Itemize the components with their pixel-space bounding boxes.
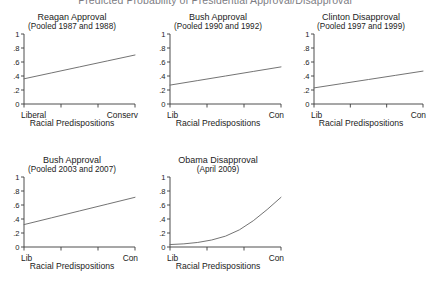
- y-axis-tick-label: .2: [13, 229, 19, 238]
- x-axis-title: Racial Predispositions: [148, 118, 288, 128]
- y-axis-tick-label: .4: [159, 215, 165, 224]
- panel-title: Reagan Approval: [2, 12, 142, 22]
- panel-title: Clinton Disapproval: [292, 12, 430, 22]
- y-axis-tick-label: .8: [159, 44, 165, 53]
- y-axis-tick-label: .6: [303, 58, 309, 67]
- x-axis-title: Racial Predispositions: [292, 118, 430, 128]
- y-axis-tick-label: .4: [13, 215, 19, 224]
- x-axis-title: Racial Predispositions: [2, 118, 142, 128]
- x-axis-title: Racial Predispositions: [148, 261, 288, 271]
- y-axis-tick-label: 1: [161, 30, 165, 39]
- y-axis-tick-label: .2: [13, 86, 19, 95]
- y-axis-tick-label: .8: [13, 187, 19, 196]
- y-axis-tick-label: 1: [305, 30, 309, 39]
- y-axis-tick-label: .2: [159, 86, 165, 95]
- y-axis-tick-label: .6: [13, 201, 19, 210]
- y-axis-tick-label: 0: [15, 100, 19, 109]
- y-axis-tick-label: 0: [305, 100, 309, 109]
- data-line-series: [24, 55, 135, 79]
- panel-obama-disapproval: 1.8.6.4.20LibCon Obama Disapproval (Apri…: [148, 155, 288, 273]
- data-line-series: [24, 197, 135, 224]
- panel-reagan-approval: 1.8.6.4.20LiberalConserv Reagan Approval…: [2, 12, 142, 130]
- panel-subtitle: (Pooled 1997 and 1999): [292, 22, 430, 31]
- panel-title: Bush Approval: [148, 12, 288, 22]
- y-axis-tick-label: 0: [161, 243, 165, 252]
- y-axis-tick-label: .4: [13, 72, 19, 81]
- panel-title: Bush Approval: [2, 155, 142, 165]
- panel-bush-approval-2003: 1.8.6.4.20LibCon Bush Approval (Pooled 2…: [2, 155, 142, 273]
- y-axis-tick-label: 1: [161, 173, 165, 182]
- y-axis-tick-label: .6: [159, 201, 165, 210]
- y-axis-tick-label: 0: [15, 243, 19, 252]
- y-axis-tick-label: .4: [303, 72, 309, 81]
- y-axis-tick-label: 1: [15, 30, 19, 39]
- panel-subtitle: (Pooled 1987 and 1988): [2, 22, 142, 31]
- figure-title: Predicted Probability of Presidential Ap…: [0, 0, 430, 6]
- y-axis-tick-label: .8: [159, 187, 165, 196]
- y-axis-tick-label: .8: [13, 44, 19, 53]
- y-axis-tick-label: 0: [161, 100, 165, 109]
- panel-subtitle: (Pooled 2003 and 2007): [2, 165, 142, 174]
- y-axis-tick-label: 1: [15, 173, 19, 182]
- x-axis-title: Racial Predispositions: [2, 261, 142, 271]
- panel-title: Obama Disapproval: [148, 155, 288, 165]
- y-axis-tick-label: .4: [159, 72, 165, 81]
- y-axis-tick-label: .6: [159, 58, 165, 67]
- panel-subtitle: (Pooled 1990 and 1992): [148, 22, 288, 31]
- y-axis-tick-label: .8: [303, 44, 309, 53]
- panel-subtitle: (April 2009): [148, 165, 288, 174]
- y-axis-tick-label: .2: [303, 86, 309, 95]
- panel-bush-approval-1990: 1.8.6.4.20LibCon Bush Approval (Pooled 1…: [148, 12, 288, 130]
- data-line-series: [314, 71, 423, 88]
- y-axis-tick-label: .6: [13, 58, 19, 67]
- data-line-series: [170, 197, 281, 244]
- y-axis-tick-label: .2: [159, 229, 165, 238]
- panel-clinton-disapproval: 1.8.6.4.20LibCon Clinton Disapproval (Po…: [292, 12, 430, 130]
- data-line-series: [170, 67, 281, 85]
